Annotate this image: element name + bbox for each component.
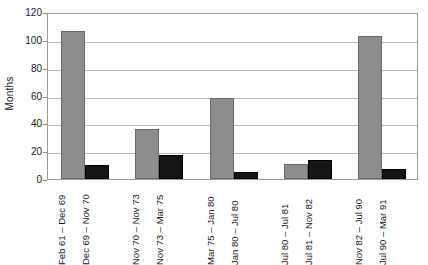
x-axis-label: Dec 69 – Nov 70: [88, 181, 104, 265]
x-axis-label-text: Jul 90 – Mar 91: [377, 200, 388, 265]
x-axis-label: Nov 73 – Mar 75: [162, 181, 178, 265]
x-axis-label-text: Feb 61 – Dec 69: [56, 195, 67, 265]
y-axis-title-label: Months: [4, 76, 15, 110]
x-axis-label-text: Jan 80 – Jul 80: [229, 201, 240, 265]
x-axis-label-text: Dec 69 – Nov 70: [80, 194, 91, 265]
bars-layer: [48, 14, 417, 179]
bar-chart: Months 020406080100120 Feb 61 – Dec 69De…: [0, 0, 428, 265]
x-axis-label-text: Mar 75 – Jan 80: [205, 196, 216, 265]
x-axis-label: Mar 75 – Jan 80: [213, 181, 229, 265]
x-axis-label: Feb 61 – Dec 69: [64, 181, 80, 265]
y-axis-tick-mark: [43, 124, 47, 125]
y-axis-tick-mark: [43, 152, 47, 153]
bar-group: [284, 14, 332, 179]
bar[interactable]: [61, 31, 85, 179]
y-axis-tick-label: 20: [16, 147, 42, 157]
y-axis-tick-labels: 020406080100120: [16, 0, 42, 186]
bar-group: [358, 14, 406, 179]
plot-area: [47, 13, 418, 180]
x-axis-label-text: Nov 70 – Nov 73: [130, 194, 141, 265]
x-axis-label: Jan 80 – Jul 80: [237, 181, 253, 265]
x-axis-label-text: Jul 80 – Jul 81: [279, 204, 290, 265]
y-axis-tick-label: 40: [16, 119, 42, 129]
x-axis-label: Jul 90 – Mar 91: [385, 181, 401, 265]
bar[interactable]: [382, 169, 406, 179]
x-axis-label: Nov 82 – Jul 90: [361, 181, 377, 265]
x-axis-label-text: Nov 82 – Jul 90: [353, 199, 364, 265]
x-axis-label-text: Nov 73 – Mar 75: [154, 195, 165, 265]
bar[interactable]: [308, 160, 332, 179]
x-axis-category-labels: Feb 61 – Dec 69Dec 69 – Nov 70Nov 70 – N…: [47, 181, 418, 265]
y-axis-tick-label: 0: [16, 175, 42, 185]
bar[interactable]: [85, 165, 109, 179]
y-axis-tick-label: 120: [16, 8, 42, 18]
bar[interactable]: [159, 155, 183, 179]
y-axis-tick-label: 100: [16, 36, 42, 46]
bar-group: [61, 14, 109, 179]
y-axis-tick-label: 60: [16, 92, 42, 102]
y-axis-tick-mark: [43, 41, 47, 42]
bar[interactable]: [210, 98, 234, 179]
bar[interactable]: [358, 36, 382, 179]
y-axis-tick-mark: [43, 69, 47, 70]
y-axis-tick-mark: [43, 13, 47, 14]
x-axis-label: Jul 80 – Jul 81: [287, 181, 303, 265]
bar[interactable]: [284, 164, 308, 179]
bar[interactable]: [234, 172, 258, 179]
bar[interactable]: [135, 129, 159, 179]
x-axis-label: Jul 81 – Nov 82: [311, 181, 327, 265]
bar-group: [210, 14, 258, 179]
y-axis-tick-mark: [43, 180, 47, 181]
x-axis-label: Nov 70 – Nov 73: [138, 181, 154, 265]
y-axis-tick-mark: [43, 97, 47, 98]
y-axis-tick-label: 80: [16, 64, 42, 74]
x-axis-label-text: Jul 81 – Nov 82: [303, 199, 314, 265]
bar-group: [135, 14, 183, 179]
